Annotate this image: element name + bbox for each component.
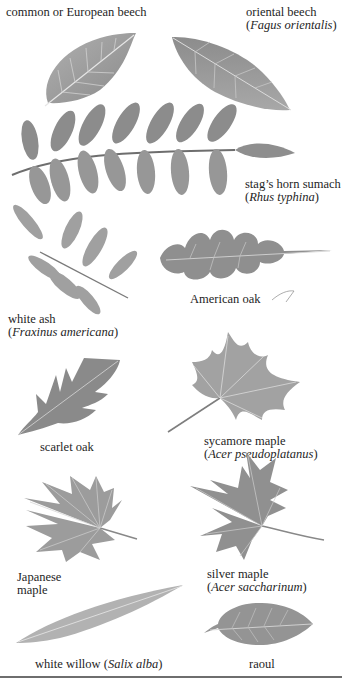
leaf-white-willow-icon: [16, 585, 183, 643]
leaf-american-oak-icon: [160, 230, 332, 302]
leaf-silver-maple-icon: [190, 452, 324, 560]
leaf-illustrations: [0, 0, 342, 684]
leaf-common-beech-icon: [45, 33, 136, 106]
leaf-stags-horn-sumach-icon: [12, 99, 295, 207]
leaf-oriental-beech-icon: [172, 37, 291, 110]
leaf-japanese-maple-icon: [24, 476, 137, 562]
leaf-white-ash-icon: [9, 201, 140, 317]
bottom-rule: [0, 676, 342, 678]
leaf-sycamore-maple-icon: [168, 332, 300, 432]
leaf-scarlet-oak-icon: [18, 358, 120, 435]
leaf-raoul-icon: [204, 603, 313, 645]
